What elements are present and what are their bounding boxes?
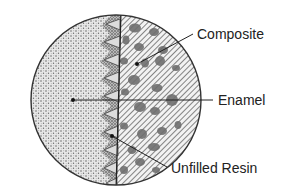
diagram-canvas: Composite Enamel Unfilled Resin (0, 0, 288, 195)
label-composite: Composite (197, 27, 264, 41)
label-unfilled-resin: Unfilled Resin (171, 161, 257, 175)
enamel-dot (71, 98, 75, 102)
label-enamel: Enamel (218, 93, 265, 107)
unfilled-resin-dot (110, 134, 114, 138)
composite-dot (135, 62, 139, 66)
